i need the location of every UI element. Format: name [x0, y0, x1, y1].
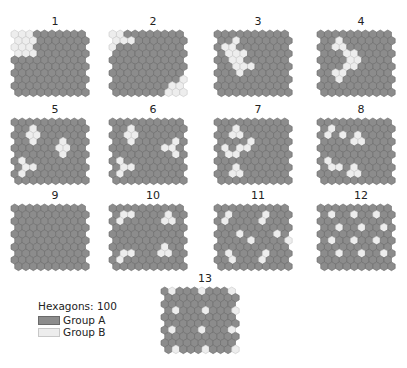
legend-title: Hexagons: 100	[38, 300, 117, 313]
hexagon-group-a	[157, 262, 164, 271]
hexagon-group-a	[37, 88, 44, 97]
hex-grid	[10, 117, 90, 186]
legend-item-group-b: Group B	[38, 326, 117, 338]
hexagon-group-a	[373, 262, 380, 271]
hexagon-group-a	[37, 262, 44, 271]
hexagon-group-a	[52, 262, 59, 271]
hexagon-group-a	[388, 262, 395, 271]
hexagon-group-a	[365, 88, 372, 97]
panel-label: 3	[213, 16, 303, 28]
hexagon-group-a	[180, 345, 187, 354]
hex-grid	[108, 29, 188, 98]
hexagon-group-a	[262, 88, 269, 97]
hexagon-group-a	[74, 88, 81, 97]
hexagon-group-a	[52, 88, 59, 97]
hexagon-group-a	[262, 176, 269, 185]
hexagon-group-a	[30, 176, 37, 185]
panel-label: 2	[108, 16, 198, 28]
hexagon-group-a	[255, 88, 262, 97]
hexagon-group-a	[172, 262, 179, 271]
hexagon-group-a	[45, 88, 52, 97]
hexagon-group-a	[336, 176, 343, 185]
hexagon-group-a	[128, 88, 135, 97]
panel-label: 5	[10, 104, 100, 116]
panel-label: 1	[10, 16, 100, 28]
hex-grid	[160, 286, 240, 355]
hexagon-group-a	[113, 176, 120, 185]
hex-grid	[316, 117, 396, 186]
hexagon-group-a	[225, 262, 232, 271]
hexagon-group-a	[240, 88, 247, 97]
hex-grid	[10, 29, 90, 98]
hexagon-group-a	[15, 176, 22, 185]
hexagon-group-a	[187, 345, 194, 354]
hexagon-group-a	[135, 262, 142, 271]
hexagon-group-a	[165, 345, 172, 354]
hexagon-group-a	[351, 262, 358, 271]
hexagon-group-a	[120, 88, 127, 97]
hexagon-group-a	[150, 176, 157, 185]
hexagon-group-a	[82, 262, 89, 271]
hexagon-group-a	[150, 88, 157, 97]
hexagon-group-a	[343, 176, 350, 185]
panel-label: 4	[316, 16, 406, 28]
hex-grid	[10, 203, 90, 272]
hex-grid	[213, 203, 293, 272]
hexagon-group-a	[358, 176, 365, 185]
panel-label: 11	[213, 190, 303, 202]
hexagon-group-a	[128, 262, 135, 271]
panel-label: 6	[108, 104, 198, 116]
hexagon-group-a	[165, 176, 172, 185]
hexagon-group-a	[22, 88, 29, 97]
hexagon-group-a	[30, 262, 37, 271]
hexagon-group-a	[388, 88, 395, 97]
hexagon-group-a	[150, 262, 157, 271]
hexagon-group-a	[74, 176, 81, 185]
legend-item-group-a: Group A	[38, 314, 117, 326]
hexagon-group-a	[15, 262, 22, 271]
hexagon-group-a	[285, 88, 292, 97]
hexagon-group-a	[380, 88, 387, 97]
hexagon-group-a	[157, 176, 164, 185]
hexagon-group-a	[365, 176, 372, 185]
hexagon-group-a	[233, 88, 240, 97]
hexagon-group-a	[120, 262, 127, 271]
hexagon-group-a	[358, 262, 365, 271]
hexagon-group-a	[224, 345, 231, 354]
hexagon-group-a	[45, 262, 52, 271]
hexagon-group-a	[59, 262, 66, 271]
hexagon-group-a	[52, 176, 59, 185]
group-a-swatch	[38, 316, 60, 325]
hexagon-group-a	[328, 176, 335, 185]
hexagon-group-a	[22, 176, 29, 185]
hexagon-group-a	[336, 88, 343, 97]
hexagon-group-a	[248, 262, 255, 271]
hexagon-group-a	[240, 262, 247, 271]
hexagon-group-a	[351, 88, 358, 97]
hexagon-group-a	[255, 176, 262, 185]
hexagon-group-b	[172, 345, 179, 354]
panel-label: 10	[108, 190, 198, 202]
legend-label-group-b: Group B	[63, 326, 106, 339]
hexagon-group-a	[180, 262, 187, 271]
panel-label: 7	[213, 104, 303, 116]
hexagon-group-a	[67, 262, 74, 271]
hex-grid	[108, 117, 188, 186]
hexagon-group-a	[277, 176, 284, 185]
panel-label: 13	[160, 273, 250, 285]
hexagon-group-a	[135, 88, 142, 97]
hexagon-group-a	[143, 176, 150, 185]
hexagon-group-a	[388, 176, 395, 185]
hexagon-group-a	[165, 262, 172, 271]
hexagon-group-a	[277, 262, 284, 271]
hexagon-group-a	[373, 88, 380, 97]
hexagon-group-a	[270, 88, 277, 97]
hexagon-group-a	[59, 176, 66, 185]
hexagon-group-a	[59, 88, 66, 97]
hexagon-group-b	[172, 88, 179, 97]
hex-grid	[316, 29, 396, 98]
hexagon-group-a	[351, 176, 358, 185]
group-b-swatch	[38, 328, 60, 337]
panel-label: 12	[316, 190, 406, 202]
hexagon-group-a	[135, 176, 142, 185]
